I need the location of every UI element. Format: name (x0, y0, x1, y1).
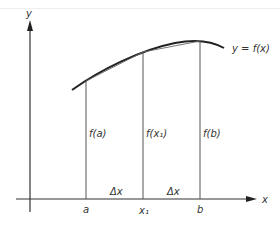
label-a: a (83, 204, 89, 215)
label-f-b: f(b) (203, 128, 221, 139)
x-axis-label: x (261, 194, 268, 205)
label-delta-x-2: Δx (166, 186, 180, 197)
label-x1: x₁ (138, 205, 149, 216)
label-b: b (197, 204, 203, 215)
curve-f (72, 41, 224, 90)
diagram-svg: y x f(a) f(x₁) f(b) a x₁ b Δx Δx y = f(x… (0, 0, 280, 227)
curve-label: y = f(x) (231, 43, 270, 54)
y-axis-label: y (25, 8, 33, 19)
label-f-a: f(a) (89, 128, 106, 139)
x-axis-arrow-icon (246, 196, 257, 202)
label-delta-x-1: Δx (109, 186, 123, 197)
y-axis-arrow-icon (27, 20, 33, 31)
diagram-canvas: y x f(a) f(x₁) f(b) a x₁ b Δx Δx y = f(x… (0, 0, 280, 227)
label-f-x1: f(x₁) (146, 128, 167, 139)
